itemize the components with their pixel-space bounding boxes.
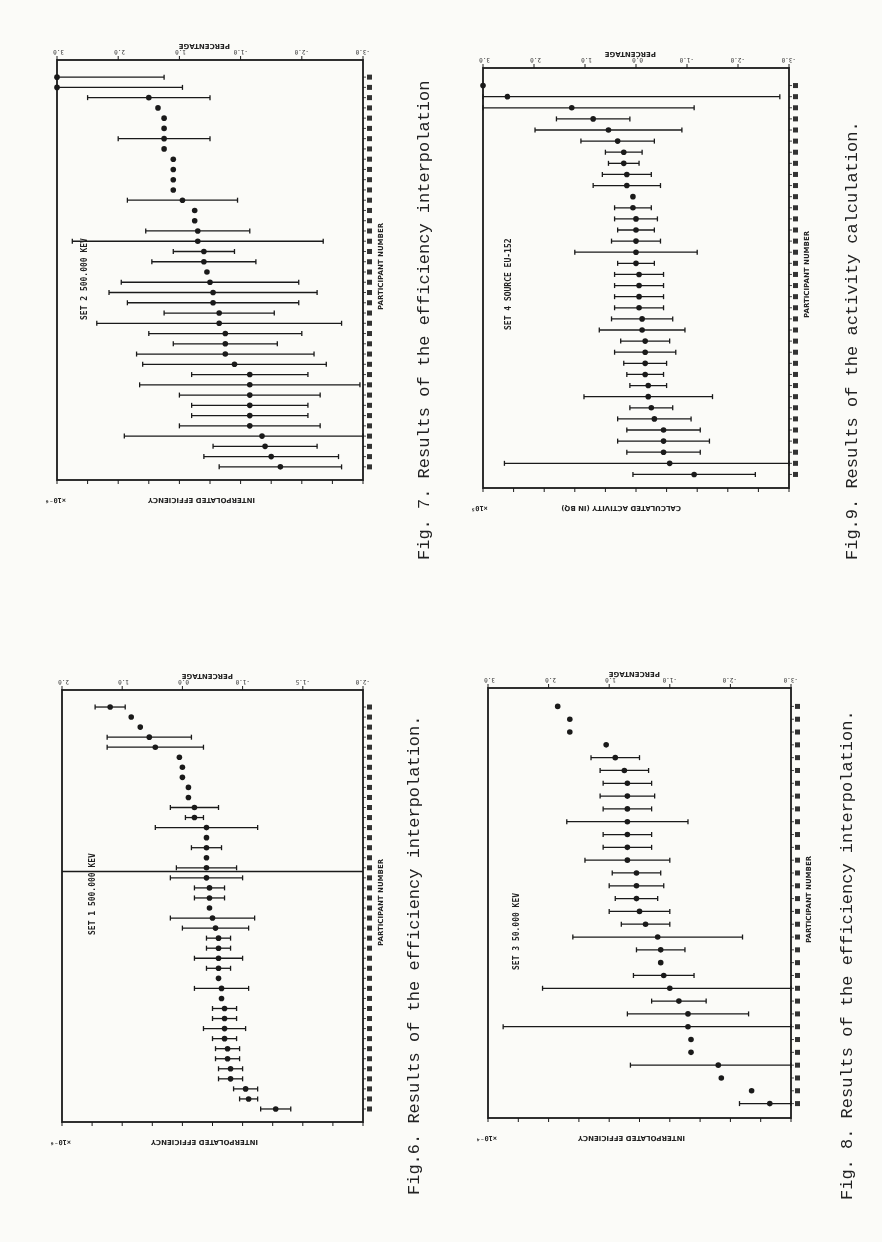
- data-point: [603, 742, 609, 748]
- data-point: [573, 934, 743, 940]
- data-point: [603, 806, 651, 812]
- percentage-tick-label: 1.0: [605, 677, 616, 684]
- data-point: [603, 780, 651, 786]
- axis-multiplier: ×10⁻⁴: [476, 1134, 497, 1142]
- data-point: [636, 947, 684, 953]
- percentage-tick-label: -2.0: [723, 677, 737, 684]
- data-point: [543, 985, 791, 991]
- data-point: [555, 704, 561, 710]
- data-point: [621, 921, 669, 927]
- data-point: [567, 716, 573, 722]
- figure-caption: Fig. 8. Results of the efficiency interp…: [838, 710, 857, 1200]
- data-point: [633, 973, 694, 979]
- data-point: [609, 883, 664, 889]
- data-point: [567, 819, 688, 825]
- data-point: [749, 1088, 755, 1094]
- data-point: [739, 1101, 791, 1107]
- percentage-tick-label: 2.0: [545, 677, 556, 684]
- data-point: [603, 845, 651, 851]
- chart-plot: [0, 0, 882, 1242]
- percentage-tick-label: -3.0: [784, 677, 798, 684]
- percentage-tick-label: -1.0: [662, 677, 676, 684]
- data-point: [609, 909, 670, 915]
- percentage-tick-label: 3.0: [484, 677, 495, 684]
- data-point: [600, 768, 648, 774]
- data-point: [567, 729, 573, 735]
- participant-axis-title: PARTICIPANT NUMBER: [805, 856, 813, 943]
- data-point: [615, 896, 657, 902]
- data-point: [652, 998, 707, 1004]
- data-point: [630, 1062, 791, 1068]
- data-point: [503, 1024, 791, 1030]
- set-label: SET 3 50.000 KEV: [512, 893, 521, 970]
- data-point: [627, 1011, 748, 1017]
- data-point: [688, 1037, 694, 1043]
- data-point: [585, 857, 670, 863]
- data-point: [612, 870, 660, 876]
- data-point: [719, 1075, 725, 1081]
- data-point: [591, 755, 639, 761]
- data-point: [688, 1050, 694, 1056]
- data-point: [658, 960, 664, 966]
- data-point: [603, 832, 651, 838]
- value-axis-title: INTERPOLATED EFFICIENCY: [577, 1134, 684, 1142]
- data-point: [600, 793, 655, 799]
